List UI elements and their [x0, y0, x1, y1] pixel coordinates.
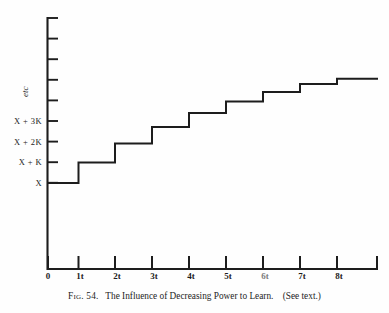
x-tick-label-2t: 2t — [113, 272, 121, 281]
y-axis-labels: X X + K X + 2K X + 3K etc — [0, 0, 42, 313]
y-tick-label-x-plus-2k: X + 2K — [14, 138, 42, 147]
x-tick-label-5t: 5t — [224, 272, 232, 281]
figure-caption: Fig. 54. The Influence of Decreasing Pow… — [0, 291, 389, 301]
figure-caption-note: (See text.) — [283, 291, 321, 301]
step-curve — [48, 79, 378, 183]
chart-plot-area — [0, 0, 389, 313]
x-tick-label-4t: 4t — [187, 272, 195, 281]
y-tick-label-etc: etc — [21, 87, 30, 98]
x-tick-label-1t: 1t — [76, 272, 84, 281]
x-tick-label-7t: 7t — [298, 272, 306, 281]
x-axis-labels: 0 1t 2t 3t 4t 5t 6t 7t 8t — [0, 272, 389, 286]
x-tick-label-8t: 8t — [335, 272, 343, 281]
y-tick-label-x-plus-3k: X + 3K — [14, 117, 42, 126]
x-tick-label-0: 0 — [46, 272, 51, 281]
x-tick-label-3t: 3t — [150, 272, 158, 281]
y-tick-label-x-plus-k: X + K — [19, 158, 42, 167]
y-axis-ticks — [47, 18, 58, 183]
figure-number: Fig. 54. — [68, 291, 98, 301]
x-axis-ticks — [48, 256, 377, 269]
figure-page: X X + K X + 2K X + 3K etc 0 1t 2t 3t 4t … — [0, 0, 389, 313]
figure-caption-text: The Influence of Decreasing Power to Lea… — [105, 291, 273, 301]
y-tick-label-x: X — [35, 179, 42, 188]
chart-svg — [0, 0, 389, 313]
x-tick-label-6t: 6t — [261, 272, 269, 281]
